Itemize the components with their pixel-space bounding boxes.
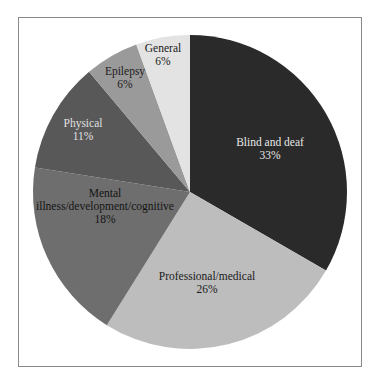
pie-chart: Blind and deaf33%Professional/medical26%…: [0, 0, 379, 384]
